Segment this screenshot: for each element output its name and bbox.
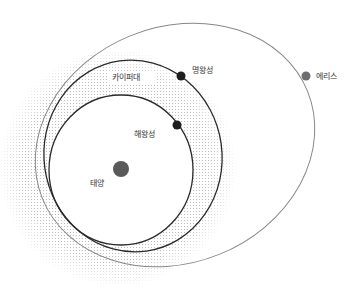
sun-label: 태양	[90, 179, 105, 188]
sun-icon	[113, 161, 129, 177]
kuiper-belt-label: 카이퍼대	[112, 72, 140, 82]
kuiper-belt-label-group: 카이퍼대	[108, 71, 156, 84]
eris-icon	[302, 72, 311, 81]
eris-label: 에리스	[316, 72, 337, 81]
neptune-icon	[173, 121, 182, 130]
neptune-label: 해왕성	[134, 129, 155, 139]
eris-group: 에리스	[302, 72, 338, 82]
solar-system-orbit-diagram: 카이퍼대 태양 해왕성명왕성에리스	[0, 0, 363, 289]
pluto-icon	[177, 72, 186, 81]
kuiper-belt-band	[0, 0, 363, 289]
pluto-label: 명왕성	[192, 65, 213, 75]
